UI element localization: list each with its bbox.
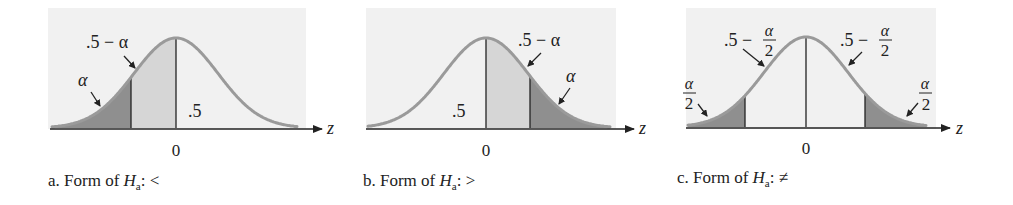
panel-a-label-half: .5 xyxy=(188,101,202,121)
panel-c-caption: c. Form of Ha: ≠ xyxy=(677,168,788,189)
panel-b: z 0 .5 − α α .5 b. Form of Ha: > xyxy=(363,8,646,192)
panel-b-caption: b. Form of Ha: > xyxy=(363,171,475,192)
normal-distribution-figure: z 0 .5 − α α .5 a. Form of Ha: < z 0 .5 … xyxy=(0,0,1013,205)
panel-b-zero-label: 0 xyxy=(482,141,491,160)
svg-text:2: 2 xyxy=(922,95,931,114)
svg-text:α: α xyxy=(765,22,774,39)
svg-text:α: α xyxy=(881,22,890,39)
svg-text:α: α xyxy=(685,75,694,92)
panel-b-axis-label: z xyxy=(638,118,646,138)
svg-text:2: 2 xyxy=(685,94,694,113)
panel-c: z 0 .5 − α 2 .5 − α 2 α 2 α 2 xyxy=(677,8,963,189)
svg-text:.5 −: .5 − xyxy=(724,30,752,50)
panel-c-zero-label: 0 xyxy=(802,139,811,158)
panel-c-axis-label: z xyxy=(955,118,963,138)
panel-a-zero-label: 0 xyxy=(172,141,181,160)
svg-text:2: 2 xyxy=(765,41,774,60)
panel-a-label-half-minus-alpha: .5 − α xyxy=(86,32,129,52)
panel-a-caption: a. Form of Ha: < xyxy=(48,171,159,192)
panel-b-label-half-minus-alpha: .5 − α xyxy=(518,30,561,50)
panel-a-label-alpha: α xyxy=(78,70,88,90)
panel-a: z 0 .5 − α α .5 a. Form of Ha: < xyxy=(48,8,334,192)
svg-text:.5 −: .5 − xyxy=(840,30,868,50)
svg-text:α: α xyxy=(921,75,930,92)
panel-b-label-alpha: α xyxy=(566,66,576,86)
panel-a-background xyxy=(48,8,306,129)
panel-a-axis-label: z xyxy=(326,118,334,138)
panel-c-background xyxy=(686,8,936,129)
svg-text:2: 2 xyxy=(881,41,890,60)
panel-b-label-half: .5 xyxy=(452,101,466,121)
